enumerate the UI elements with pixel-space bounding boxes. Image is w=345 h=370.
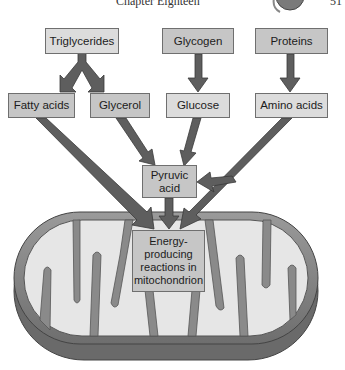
node-label: Amino acids <box>260 99 323 112</box>
arrow-glucose-pyruvic <box>180 118 201 166</box>
pathway-arrows <box>36 53 300 229</box>
node-label: Fatty acids <box>14 99 70 112</box>
node-fatty-acids: Fatty acids <box>8 93 75 118</box>
node-label-line1: Pyruvic <box>151 169 189 182</box>
node-label-line1: Energy- <box>149 235 188 248</box>
node-label-line3: reactions in <box>140 261 196 274</box>
arrow-glycerol-pyruvic <box>116 118 155 165</box>
arrow-proteins-amino <box>280 54 300 92</box>
node-label-line2: producing <box>144 248 192 261</box>
node-label-line4: mitochondrion <box>134 274 203 287</box>
node-pyruvic-acid: Pyruvic acid <box>142 165 197 198</box>
node-triglycerides: Triglycerides <box>45 28 119 54</box>
node-label-line2: acid <box>159 182 180 195</box>
node-glucose: Glucose <box>166 93 230 118</box>
node-label: Proteins <box>270 35 312 48</box>
arrow-triglycerides-split <box>60 53 104 92</box>
arrow-glycogen-glucose <box>188 54 208 92</box>
node-proteins: Proteins <box>255 28 328 54</box>
node-glycogen: Glycogen <box>162 28 234 54</box>
node-label: Triglycerides <box>50 35 115 48</box>
page-decoration-icon <box>274 0 304 12</box>
node-label: Glycogen <box>174 35 223 48</box>
node-amino-acids: Amino acids <box>255 93 328 118</box>
node-label: Glucose <box>177 99 219 112</box>
node-energy-reactions: Energy- producing reactions in mitochond… <box>132 230 205 292</box>
node-label: Glycerol <box>99 99 141 112</box>
node-glycerol: Glycerol <box>90 93 150 118</box>
